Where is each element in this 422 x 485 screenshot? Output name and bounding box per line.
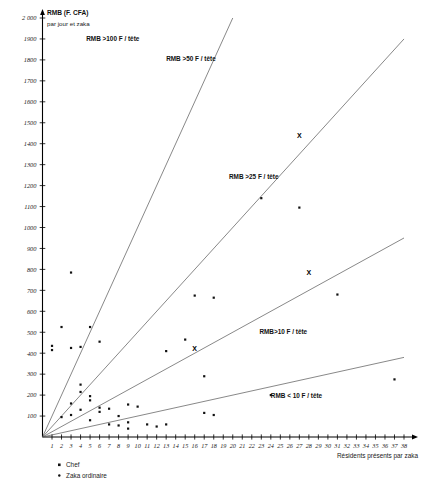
data-point-zaka-ordinaire [108,423,110,425]
data-point-zaka-ordinaire [98,411,100,413]
data-point-zaka-ordinaire [79,346,81,348]
x-tick-label: 35 [371,442,378,449]
x-tick-label: 14 [173,442,179,449]
y-tick-label: 200 [27,391,37,398]
zone-label-1: RMB >50 F / tête [166,55,216,62]
x-tick-label: 24 [268,442,274,449]
x-tick-label: 8 [117,442,121,449]
y-axis-subtitle: par jour et zaka [47,20,90,27]
x-tick-label: 37 [390,442,398,449]
x-tick-label: 13 [163,442,169,449]
data-point-zaka-ordinaire [213,414,215,416]
data-point-zaka-ordinaire [127,428,129,430]
data-point-zaka-ordinaire [137,406,139,408]
data-point-zaka-ordinaire [165,350,167,352]
y-tick-label: 1900 [24,35,38,42]
legend-label-zaka-ordinaire: Zaka ordinaire [66,472,107,479]
y-axis-title: RMB (F. CFA) [47,9,88,17]
y-axis-ticks: 1002003004005006007008009001000110012001… [22,14,45,419]
data-point-zaka-ordinaire [60,326,62,328]
data-point-zaka-ordinaire [203,412,205,414]
data-point-zaka-ordinaire [336,293,338,295]
data-point-zaka-ordinaire [98,407,100,409]
y-tick-label: 1400 [24,140,38,147]
legend-marker-zaka-ordinaire [58,474,60,476]
y-tick-label: 600 [27,308,37,315]
reference-ray-2 [43,238,405,437]
chart-canvas: 1002003004005006007008009001000110012001… [0,0,422,485]
x-axis-arrow-icon [412,435,418,440]
x-tick-label: 20 [230,442,237,449]
x-tick-label: 33 [352,442,359,449]
series-zaka-ordinaire [51,197,396,430]
y-tick-label: 2 000 [22,14,37,21]
reference-ray-0 [43,18,233,437]
zone-label-3: RMB>10 F / tête [259,328,307,335]
data-point-zaka-ordinaire [89,395,91,397]
y-tick-label: 100 [27,412,37,419]
x-tick-label: 6 [98,442,102,449]
data-point-zaka-ordinaire [108,408,110,410]
zone-label-0: RMB >100 F / tête [86,35,140,42]
data-point-chef: X [307,269,312,276]
data-point-zaka-ordinaire [98,341,100,343]
x-tick-label: 15 [182,442,188,449]
y-tick-label: 1700 [24,77,38,84]
zone-label-4: RMB < 10 F / tête [271,392,323,399]
data-point-zaka-ordinaire [70,347,72,349]
y-tick-label: 1600 [24,98,38,105]
data-point-zaka-ordinaire [127,421,129,423]
y-tick-label: 1000 [24,224,38,231]
reference-ray-3 [43,357,405,437]
x-tick-label: 17 [201,442,208,449]
x-tick-label: 5 [89,442,92,449]
data-point-zaka-ordinaire [70,414,72,416]
data-point-zaka-ordinaire [393,378,395,380]
x-tick-label: 27 [296,442,303,449]
chart-legend: Chef Zaka ordinaire [58,461,107,479]
reference-ray-1 [43,39,405,437]
data-point-zaka-ordinaire [70,271,72,273]
y-tick-label: 1200 [24,182,38,189]
data-point-zaka-ordinaire [156,425,158,427]
x-tick-label: 2 [60,442,63,449]
x-tick-label: 30 [324,442,332,449]
data-point-zaka-ordinaire [165,423,167,425]
y-tick-label: 500 [27,329,37,336]
data-point-zaka-ordinaire [60,416,62,418]
x-tick-label: 10 [135,442,142,449]
x-tick-label: 36 [381,442,389,449]
x-tick-label: 7 [108,442,112,449]
data-point-zaka-ordinaire [298,206,300,208]
data-point-zaka-ordinaire [260,197,262,199]
y-tick-label: 800 [27,266,37,273]
y-tick-label: 700 [27,287,37,294]
x-tick-label: 1 [50,442,53,449]
data-point-zaka-ordinaire [118,415,120,417]
chart-axes [40,9,418,439]
data-point-zaka-ordinaire [146,423,148,425]
y-tick-label: 300 [26,370,37,377]
x-tick-label: 31 [333,442,340,449]
data-point-zaka-ordinaire [89,399,91,401]
x-tick-label: 9 [127,442,130,449]
zone-label-2: RMB >25 F / tête [229,173,279,180]
series-chef: XXX [192,132,311,352]
data-point-zaka-ordinaire [79,384,81,386]
x-tick-label: 32 [343,442,350,449]
data-point-zaka-ordinaire [127,403,129,405]
data-point-zaka-ordinaire [79,409,81,411]
data-point-zaka-ordinaire [51,345,53,347]
data-point-zaka-ordinaire [194,294,196,296]
data-point-zaka-ordinaire [118,424,120,426]
x-tick-label: 25 [277,442,283,449]
y-tick-label: 1100 [24,203,37,210]
x-tick-label: 26 [287,442,294,449]
y-axis-arrow-icon [40,9,45,15]
x-tick-label: 38 [400,442,408,449]
y-tick-label: 1300 [24,161,38,168]
x-axis-title: Résidents présents par zaka [337,452,418,460]
reference-rays [43,18,405,437]
x-tick-label: 4 [79,442,82,449]
data-point-zaka-ordinaire [70,402,72,404]
